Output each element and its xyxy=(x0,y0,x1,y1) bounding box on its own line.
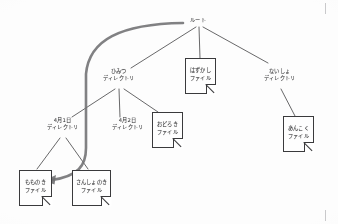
folded-corner-icon xyxy=(206,84,216,94)
node-april1-directory[interactable]: 4月1日 ディレクトリ xyxy=(34,117,91,131)
edge-himitsu-odoroki xyxy=(124,89,158,112)
node-hazukashi-label-line1: はずかし xyxy=(190,67,211,74)
node-naisho-label-line2: ディレクトリ xyxy=(251,75,308,82)
edge-root-hazukashi xyxy=(199,27,200,58)
node-sanshonoki-label-line2: ファイル xyxy=(81,187,102,194)
node-sanshonoki-file[interactable]: さんしょのき ファイル xyxy=(72,170,111,206)
crop-mark-top-right xyxy=(325,3,326,14)
highlight-path-root-to-momonoki xyxy=(44,23,183,185)
node-momonoki-label-line2: ファイル xyxy=(25,187,46,194)
edge-naisho-ankoku xyxy=(281,89,295,116)
edge-himitsu-april2 xyxy=(119,89,120,117)
node-april1-label-line2: ディレクトリ xyxy=(34,124,91,131)
node-odoroki-label-line2: ファイル xyxy=(157,129,178,136)
edge-april1-momonoki xyxy=(37,138,60,169)
crop-mark-bottom-right xyxy=(325,210,326,221)
folded-corner-icon xyxy=(173,138,183,148)
edge-himitsu-april1 xyxy=(72,89,115,117)
node-sanshonoki-label-line1: さんしょのき xyxy=(76,179,107,186)
node-himitsu-directory[interactable]: ひみつ ディレクトリ xyxy=(90,68,147,82)
node-odoroki-file[interactable]: おどろき ファイル xyxy=(152,112,183,148)
node-momonoki-label-line1: もものき xyxy=(25,179,46,186)
node-naisho-directory[interactable]: ないしょ ディレクトリ xyxy=(251,68,308,82)
node-root-label-line1: ルート xyxy=(178,17,218,24)
diagram-canvas: ルート ひみつ ディレクトリ ないしょ ディレクトリ 4月1日 ディレクトリ 4… xyxy=(0,0,338,224)
node-april2-label-line2: ディレクトリ xyxy=(99,124,156,131)
folded-corner-icon xyxy=(304,142,314,152)
node-root[interactable]: ルート xyxy=(178,17,218,24)
node-hazukashi-file[interactable]: はずかし ファイル xyxy=(185,58,216,94)
node-hazukashi-label-line2: ファイル xyxy=(190,75,211,82)
node-momonoki-file[interactable]: もものき ファイル xyxy=(19,170,52,206)
node-ankoku-label-line1: あんこく xyxy=(288,125,309,132)
node-himitsu-label-line2: ディレクトリ xyxy=(90,75,147,82)
node-ankoku-file[interactable]: あんこく ファイル xyxy=(283,116,314,152)
node-odoroki-label-line1: おどろき xyxy=(157,121,178,128)
folded-corner-icon xyxy=(101,196,111,206)
node-ankoku-label-line2: ファイル xyxy=(288,133,309,140)
folded-corner-icon xyxy=(42,196,52,206)
node-april2-directory[interactable]: 4月2日 ディレクトリ xyxy=(99,117,156,131)
